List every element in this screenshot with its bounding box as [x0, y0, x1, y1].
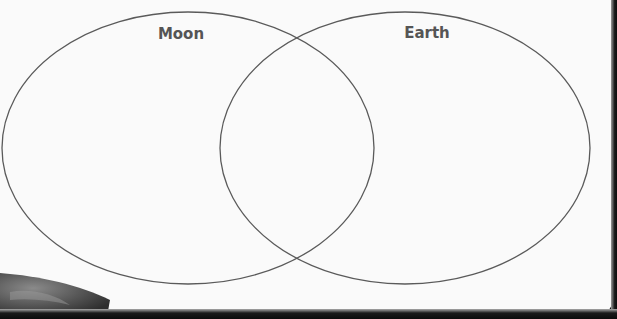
moon-label: Moon [158, 25, 204, 43]
page-right-edge [611, 0, 617, 319]
moon-circle [2, 12, 374, 284]
worksheet-page: Moon Earth [0, 0, 612, 311]
page-bottom-edge [0, 309, 617, 319]
earth-circle [220, 12, 590, 284]
venn-diagram: Moon Earth [0, 0, 612, 311]
earth-label: Earth [404, 24, 450, 42]
